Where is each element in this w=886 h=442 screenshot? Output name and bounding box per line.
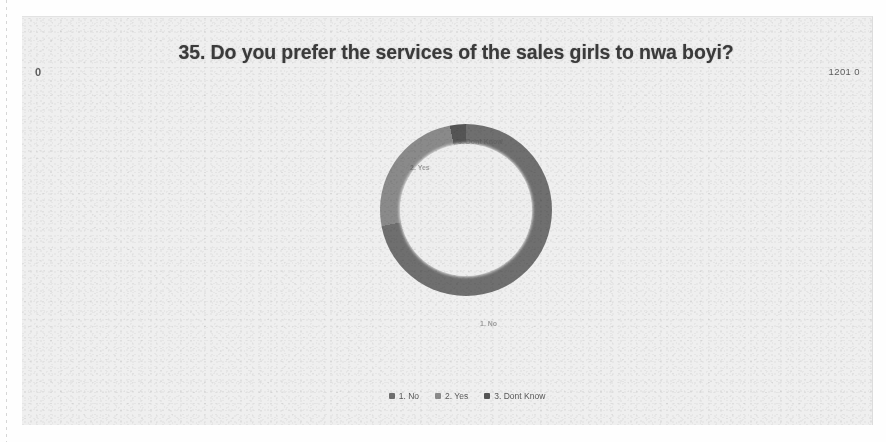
chart-title: 35. Do you prefer the services of the sa… bbox=[22, 41, 872, 64]
slice-label-dont-know: 3. Dont Know bbox=[458, 138, 503, 145]
legend-item-yes[interactable]: 2. Yes bbox=[435, 391, 468, 401]
chart-plot-area: 35. Do you prefer the services of the sa… bbox=[22, 16, 873, 425]
slice-label-yes: 2. Yes bbox=[410, 164, 430, 171]
donut-chart: 3. Dont Know 2. Yes 1. No bbox=[380, 124, 552, 296]
slice-label-no: 1. No bbox=[480, 320, 497, 327]
legend-swatch-yes bbox=[435, 393, 441, 399]
scanned-page: 35. Do you prefer the services of the sa… bbox=[0, 0, 886, 442]
legend-label-dont-know: 3. Dont Know bbox=[494, 391, 545, 401]
page-number-right: 1201 0 bbox=[829, 66, 860, 77]
page-binding-line bbox=[6, 0, 7, 442]
legend-label-no: 1. No bbox=[399, 391, 419, 401]
chart-legend: 1. No 2. Yes 3. Dont Know bbox=[22, 391, 872, 401]
legend-swatch-no bbox=[389, 393, 395, 399]
legend-swatch-dont-know bbox=[484, 393, 490, 399]
legend-label-yes: 2. Yes bbox=[445, 391, 468, 401]
page-number-left: 0 bbox=[35, 66, 41, 78]
legend-item-dont-know[interactable]: 3. Dont Know bbox=[484, 391, 545, 401]
legend-item-no[interactable]: 1. No bbox=[389, 391, 419, 401]
